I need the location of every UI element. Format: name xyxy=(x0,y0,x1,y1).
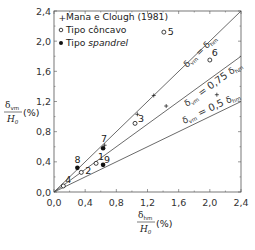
open-circle-marker xyxy=(133,121,137,125)
x-tick-label: 0,0 xyxy=(46,197,61,208)
legend: + Mana e Clough (1981) Tipo côncavo Tipo… xyxy=(59,11,169,48)
y-tick-label: 0,4 xyxy=(36,156,51,167)
y-tick-label: 1,2 xyxy=(36,96,51,107)
legend-label: Mana e Clough (1981) xyxy=(66,11,168,22)
svg-text:δvm = 0,5 δhm: δvm = 0,5 δhm xyxy=(180,90,242,127)
point-label: 4 xyxy=(65,174,71,185)
legend-label: Tipo côncavo xyxy=(65,24,127,35)
x-tick-label: 1,2 xyxy=(140,197,155,208)
line-label-05: δvm = 0,5 δhm xyxy=(180,90,242,127)
svg-text:H0: H0 xyxy=(139,224,152,235)
y-tick-label: 0,0 xyxy=(36,187,51,198)
open-circle-icon xyxy=(59,28,63,32)
y-axis-label: δvm H0 (%) xyxy=(4,100,39,125)
x-tick-label: 1,6 xyxy=(171,197,186,208)
open-circle-marker xyxy=(79,170,83,174)
legend-item-concavo: Tipo côncavo xyxy=(59,24,127,35)
legend-item-spandrel: Tipo spandrel xyxy=(59,37,129,48)
svg-text:(%): (%) xyxy=(156,218,172,229)
svg-text:(%): (%) xyxy=(23,107,39,118)
legend-label: Tipo spandrel xyxy=(65,37,129,48)
legend-item-mana-clough: + Mana e Clough (1981) xyxy=(59,11,169,23)
open-circle-marker xyxy=(162,30,166,34)
y-tick-label: 2,0 xyxy=(36,36,51,47)
y-tick-label: 2,4 xyxy=(36,6,51,17)
x-axis-label: δhm H0 (%) xyxy=(137,210,172,235)
point-label: 9 xyxy=(104,154,110,165)
svg-text:δvm: δvm xyxy=(5,100,19,111)
reference-line xyxy=(54,102,241,193)
x-tick-label: 2,0 xyxy=(202,197,217,208)
open-circle-marker xyxy=(208,58,212,62)
y-tick-label: 0,8 xyxy=(36,126,51,137)
x-tick-label: 0,8 xyxy=(109,197,124,208)
point-label: 6 xyxy=(212,47,218,58)
point-label: 5 xyxy=(168,26,174,37)
x-tick-label: 0,4 xyxy=(78,197,93,208)
x-tick-label: 2,4 xyxy=(233,197,248,208)
point-label: 3 xyxy=(138,113,144,124)
svg-text:H0: H0 xyxy=(6,114,19,125)
point-label: 7 xyxy=(101,133,107,144)
chart: 0,00,40,81,21,62,02,40,00,40,81,21,62,02… xyxy=(0,0,255,250)
filled-circle-marker xyxy=(75,166,80,171)
svg-text:δhm: δhm xyxy=(138,210,152,221)
y-tick-label: 1,6 xyxy=(36,66,51,77)
filled-circle-marker xyxy=(101,146,106,151)
filled-circle-icon xyxy=(59,41,63,45)
point-label: 8 xyxy=(74,154,80,165)
point-label: 2 xyxy=(85,165,91,176)
